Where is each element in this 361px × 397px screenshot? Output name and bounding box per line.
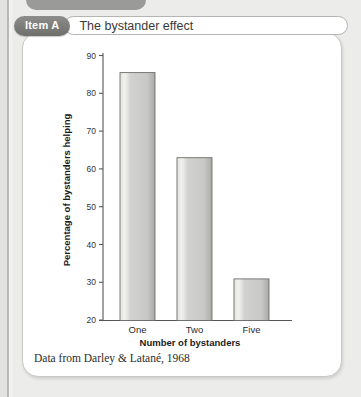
item-card — [22, 32, 342, 377]
item-title-pill: The bystander effect — [64, 16, 348, 35]
page-title: The bystander effect — [79, 19, 193, 33]
item-header: Item A The bystander effect — [14, 15, 348, 36]
item-badge: Item A — [14, 16, 70, 36]
source-note: Data from Darley & Latané, 1968 — [34, 352, 190, 364]
page-tab-decoration — [26, 0, 146, 10]
